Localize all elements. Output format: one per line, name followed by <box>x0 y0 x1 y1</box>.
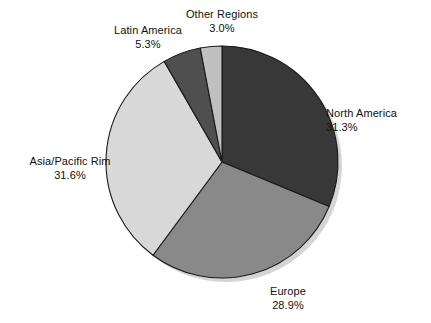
slice-label-other-regions-name: Other Regions <box>166 8 278 22</box>
slice-label-europe-value: 28.9% <box>243 299 333 313</box>
slice-label-latin-america-name: Latin America <box>92 24 204 38</box>
slice-label-north-america: North America 31.3% <box>326 107 430 134</box>
slice-label-asia-pacific-rim-value: 31.6% <box>14 169 126 183</box>
slice-label-europe-name: Europe <box>243 285 333 299</box>
slice-label-asia-pacific-rim-name: Asia/Pacific Rim <box>14 155 126 169</box>
slice-label-latin-america: Latin America 5.3% <box>92 24 204 51</box>
slice-label-latin-america-value: 5.3% <box>92 38 204 52</box>
pie-slices-group <box>106 46 338 278</box>
slice-label-asia-pacific-rim: Asia/Pacific Rim 31.6% <box>14 155 126 182</box>
slice-label-north-america-name: North America <box>326 107 430 121</box>
pie-chart-figure: Other Regions 3.0% Latin America 5.3% No… <box>0 0 431 323</box>
slice-label-north-america-value: 31.3% <box>326 121 430 135</box>
slice-label-europe: Europe 28.9% <box>243 285 333 312</box>
